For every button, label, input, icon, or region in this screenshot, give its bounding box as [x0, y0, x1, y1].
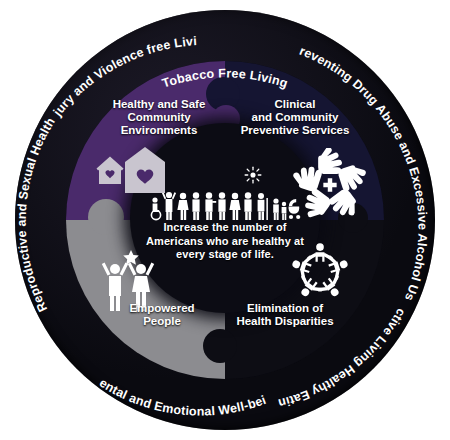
hands-circle-cross-icon	[293, 148, 367, 222]
label-line: Empowered	[112, 302, 212, 315]
puzzle-tab-left	[88, 199, 124, 235]
sun-icon	[244, 166, 262, 184]
quadrant-label-empowered-people: Empowered People	[112, 302, 212, 328]
prevention-wheel-graphic: Increase the number of Americans who are…	[0, 0, 450, 440]
label-line: Community	[100, 111, 218, 124]
quadrant-label-healthy-safe-community-environments: Healthy and Safe Community Environments	[100, 98, 218, 137]
label-line: Healthy and Safe	[100, 98, 218, 111]
label-line: Environments	[100, 124, 218, 137]
label-line: Preventive Services	[236, 124, 354, 137]
label-line: and Community	[236, 111, 354, 124]
quadrant-label-elimination-of-health-disparities: Elimination of Health Disparities	[230, 302, 340, 328]
puzzle-tab-bottom	[203, 329, 237, 363]
diverse-people-row-icon	[148, 186, 302, 222]
center-mission-text: Increase the number of Americans who are…	[139, 221, 311, 262]
label-line: Health Disparities	[230, 315, 340, 328]
people-holding-hands-circle-icon	[288, 240, 352, 304]
label-line: People	[112, 315, 212, 328]
label-line: Clinical	[236, 98, 354, 111]
label-line: Elimination of	[230, 302, 340, 315]
houses-with-heart-icon	[93, 146, 165, 194]
quadrant-label-clinical-and-community-preventive-services: Clinical and Community Preventive Servic…	[236, 98, 354, 137]
